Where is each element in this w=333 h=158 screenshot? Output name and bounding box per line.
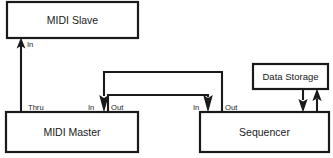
- box-label-sequencer: Sequencer: [239, 126, 290, 138]
- port-label-master-thru: Thru: [28, 103, 44, 112]
- port-label-sequencer-out: Out: [225, 103, 238, 112]
- diagram-canvas: MIDI Slave MIDI Master Sequencer Data St…: [0, 0, 333, 158]
- box-label-midi-slave: MIDI Slave: [47, 14, 99, 26]
- box-label-midi-master: MIDI Master: [43, 126, 101, 138]
- box-label-data-storage: Data Storage: [263, 71, 319, 82]
- port-label-master-in: In: [88, 103, 94, 112]
- arrowhead-sequencer-from-storage: [298, 99, 307, 113]
- midi-connection-diagram: MIDI Slave MIDI Master Sequencer Data St…: [0, 0, 333, 158]
- arrowhead-sequencer-in: [203, 95, 213, 113]
- port-label-sequencer-in: In: [193, 103, 199, 112]
- port-label-master-out: Out: [111, 103, 124, 112]
- port-label-slave-in: In: [27, 40, 33, 49]
